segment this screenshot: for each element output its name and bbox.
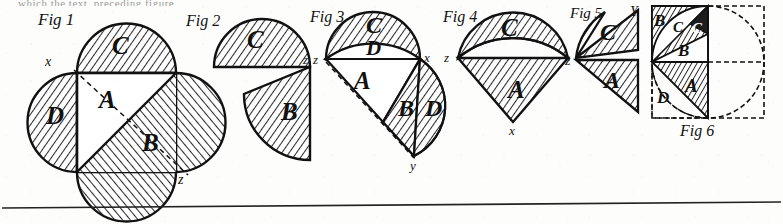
fig1-label-C: C bbox=[112, 32, 129, 59]
fig4-label-C: C bbox=[501, 14, 518, 41]
fig6-label-B-upper: B bbox=[653, 11, 665, 30]
figure-plate: which the text, preceding figure bbox=[0, 0, 783, 224]
fig5-point-z: z bbox=[564, 53, 571, 68]
fig3-label-D-crescent: D bbox=[424, 95, 442, 121]
fig3-label-B: B bbox=[397, 95, 414, 121]
fig4-point-z: z bbox=[443, 50, 449, 65]
fig3-point-y: y bbox=[408, 158, 416, 173]
fig6-caption: Fig 6 bbox=[679, 122, 714, 140]
fig1-point-z: z bbox=[177, 172, 184, 187]
fig4-label-A: A bbox=[506, 76, 525, 103]
fig3-label-C: C bbox=[366, 12, 383, 38]
fig3-label-A: A bbox=[352, 67, 371, 94]
fig6-label-C-right: C bbox=[692, 20, 703, 36]
fig1-point-x: x bbox=[44, 54, 52, 69]
figure-fig3: Fig 3 z x y C D A B D bbox=[309, 8, 445, 173]
fig2-label-C: C bbox=[247, 26, 264, 53]
fig5-caption: Fig 5 bbox=[569, 5, 603, 21]
figure-fig4: Fig 4 z x C A bbox=[442, 8, 568, 138]
fig2-point-z: z bbox=[302, 52, 308, 67]
fig5-label-C: C bbox=[600, 19, 617, 45]
fig2-caption: Fig 2 bbox=[185, 12, 220, 30]
fig6-label-A: A bbox=[684, 75, 698, 96]
fig2-label-B: B bbox=[280, 98, 298, 125]
fig1-label-A: A bbox=[97, 86, 116, 113]
fig3-label-D-lens: D bbox=[365, 36, 381, 60]
fig6-label-C-left: C bbox=[673, 19, 684, 35]
figure-fig5: Fig 5 Y z C A bbox=[564, 4, 640, 112]
fig5-label-A: A bbox=[602, 67, 620, 93]
fig4-point-x: x bbox=[508, 123, 515, 138]
fig3-point-x: x bbox=[423, 50, 430, 65]
fig1-caption: Fig 1 bbox=[37, 10, 74, 29]
fig6-label-D: D bbox=[656, 88, 669, 107]
figures-svg: Fig 1 x z C A D B Fig 2 z C B bbox=[0, 0, 783, 224]
figure-fig6: B C C B A D Fig 6 bbox=[652, 6, 764, 140]
fig2-region-B bbox=[244, 67, 310, 160]
cutoff-header-text: which the text, preceding figure bbox=[18, 0, 188, 6]
figure-fig1: Fig 1 x z C A D B bbox=[28, 10, 226, 222]
fig3-point-z: z bbox=[312, 52, 318, 67]
fig6-label-B-lower: B bbox=[677, 41, 689, 60]
fig1-label-B: B bbox=[141, 129, 159, 156]
fig1-label-D: D bbox=[45, 102, 64, 129]
fig3-caption: Fig 3 bbox=[309, 8, 344, 26]
fig4-caption: Fig 4 bbox=[442, 8, 477, 26]
